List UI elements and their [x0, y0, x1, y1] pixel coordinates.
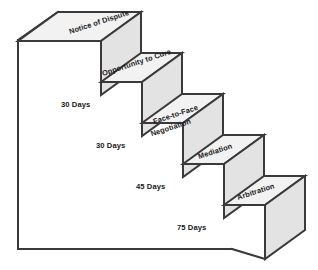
interval-4-label: 75 Days	[177, 223, 206, 232]
interval-2-label: 30 Days	[96, 141, 125, 150]
interval-1-label: 30 Days	[61, 100, 90, 109]
dispute-escalation-staircase-diagram: Notice of Dispute Opportunity to Cure Fa…	[0, 0, 318, 270]
staircase-base-edge	[232, 249, 265, 259]
staircase-illustration: Notice of Dispute Opportunity to Cure Fa…	[0, 0, 318, 270]
interval-3-label: 45 Days	[136, 182, 165, 191]
